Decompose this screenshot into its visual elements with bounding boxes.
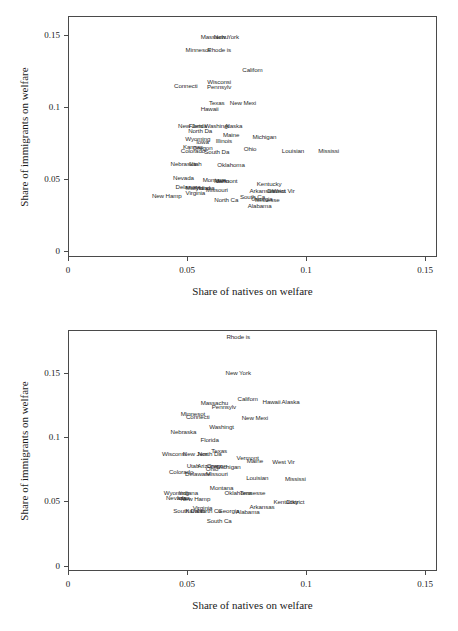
y-tick-label: 0.05 — [44, 497, 60, 506]
point-label: Nebraska — [171, 429, 197, 435]
y-tick — [64, 373, 68, 374]
point-label: New Mexi — [230, 100, 256, 106]
y-tick-label: 0.1 — [49, 102, 60, 111]
point-label: North Da — [198, 451, 222, 457]
y-tick — [64, 566, 68, 567]
point-label: Rhode is — [207, 47, 231, 53]
point-label: New York — [226, 370, 251, 376]
point-label: District — [286, 499, 304, 505]
x-tick-label: 0.05 — [179, 266, 195, 275]
point-label: Minnesot — [186, 47, 210, 53]
point-label: Michigan — [252, 133, 276, 139]
point-label: Mississi — [285, 476, 306, 482]
point-label: Louisian — [246, 474, 268, 480]
point-label: Hawaii — [201, 106, 219, 112]
point-label: Utah — [189, 161, 202, 167]
point-label: Alabama — [236, 509, 260, 515]
point-label: Connecti — [174, 83, 198, 89]
x-tick — [68, 257, 69, 261]
point-label: Illinois — [216, 138, 232, 144]
point-label: New Mexi — [242, 415, 268, 421]
point-label: New York — [214, 34, 239, 40]
y-axis-title: Share of immigrants on welfare — [18, 381, 30, 520]
point-label: Vermont — [215, 178, 237, 184]
point-label: Washingt — [209, 424, 234, 430]
y-tick — [64, 251, 68, 252]
y-tick — [64, 107, 68, 108]
y-tick-label: 0 — [56, 247, 61, 256]
x-axis-title: Share of natives on welfare — [192, 599, 312, 611]
point-label: Florida — [201, 437, 219, 443]
point-label: Oklahoma — [217, 162, 244, 168]
x-tick-label: 0.1 — [300, 580, 311, 589]
y-tick-label: 0.05 — [44, 175, 60, 184]
panel-top: MassachuNew YorkMinnesotRhode isCalifomW… — [0, 0, 458, 316]
point-label: New Hamp — [180, 496, 210, 502]
point-label: North Da — [188, 128, 212, 134]
point-label: West Vir — [272, 459, 294, 465]
point-label: Maine — [247, 458, 263, 464]
x-tick-label: 0 — [66, 580, 71, 589]
point-label: Missouri — [206, 471, 228, 477]
y-tick — [64, 35, 68, 36]
y-tick — [64, 437, 68, 438]
point-label: Alabama — [248, 203, 272, 209]
x-tick — [306, 571, 307, 575]
y-tick-label: 0.1 — [49, 432, 60, 441]
y-tick — [64, 501, 68, 502]
point-label: West Vir — [272, 188, 294, 194]
point-label: North Ca — [214, 197, 238, 203]
x-tick — [306, 257, 307, 261]
point-label: Califom — [238, 396, 258, 402]
x-tick — [187, 257, 188, 261]
y-axis-title: Share of immigrants on welfare — [18, 67, 30, 206]
x-tick — [425, 571, 426, 575]
point-label: New Hamp — [152, 193, 182, 199]
point-label: Missouri — [206, 187, 228, 193]
scatter-figure: MassachuNew YorkMinnesotRhode isCalifomW… — [0, 0, 458, 631]
point-label: Connecti — [186, 414, 210, 420]
x-tick-label: 0.15 — [417, 580, 433, 589]
point-label: Louisian — [282, 148, 304, 154]
point-label: Nevada — [173, 175, 194, 181]
x-tick — [187, 571, 188, 575]
point-label: Mississi — [318, 148, 339, 154]
x-tick-label: 0 — [66, 266, 71, 275]
point-label: Pennsylv — [212, 404, 236, 410]
y-tick-label: 0.15 — [44, 368, 60, 377]
point-label: Hawaii — [263, 398, 281, 404]
x-tick-label: 0.1 — [300, 266, 311, 275]
point-label: Tennesse — [240, 490, 266, 496]
plot-area-bottom — [68, 330, 437, 571]
y-tick-label: 0.15 — [44, 30, 60, 39]
y-tick — [64, 179, 68, 180]
x-tick — [425, 257, 426, 261]
point-label: South Da — [204, 149, 229, 155]
x-tick-label: 0.05 — [179, 580, 195, 589]
point-label: Virginia — [185, 190, 205, 196]
point-label: Ohio — [244, 146, 257, 152]
point-label: Califom — [242, 67, 262, 73]
point-label: Pennsylv — [207, 84, 231, 90]
x-tick-label: 0.15 — [417, 266, 433, 275]
panel-bottom: Rhode isNew YorkCalifomHawaiiAlaskaMassa… — [0, 316, 458, 631]
point-label: South Ca — [207, 518, 232, 524]
point-label: Colorado — [181, 148, 205, 154]
point-label: Rhode is — [226, 334, 250, 340]
point-label: Alaska — [282, 398, 300, 404]
x-tick — [68, 571, 69, 575]
x-axis-title: Share of natives on welfare — [192, 285, 312, 297]
point-label: Alaska — [224, 123, 242, 129]
y-tick-label: 0 — [56, 561, 61, 570]
